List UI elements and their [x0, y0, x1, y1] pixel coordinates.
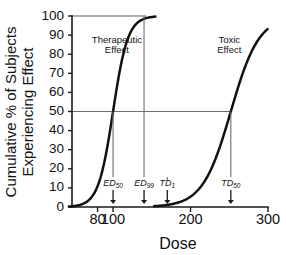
- ed99-marker-label: ED99: [134, 178, 154, 189]
- y-tick-label: 40: [49, 122, 64, 137]
- x-axis-title: Dose: [159, 235, 196, 252]
- y-axis-title: Cumulative % of Subjects Experiencing Ef…: [2, 27, 36, 198]
- td1-marker-label: TD1: [159, 178, 175, 189]
- y-tick-label: 90: [49, 27, 64, 42]
- x-axis-tick-labels: 80100200300: [89, 211, 280, 227]
- dose-response-chart: Cumulative % of Subjects Experiencing Ef…: [0, 0, 286, 255]
- reference-lines: [72, 16, 231, 112]
- y-axis-title-line1: Cumulative % of Subjects: [2, 27, 19, 198]
- ed50-marker-label: ED50: [103, 178, 123, 189]
- td50-marker-arrow-head: [228, 200, 234, 204]
- x-tick-label: 200: [178, 211, 202, 227]
- y-tick-label: 50: [49, 103, 64, 118]
- y-tick-label: 80: [49, 46, 64, 61]
- toxic-effect-label-line2: Effect: [217, 44, 241, 55]
- y-tick-label: 10: [49, 179, 64, 194]
- region-annotations: TherapeuticEffectToxicEffect: [92, 34, 242, 55]
- y-axis-tick-labels: 0102030405060708090100: [41, 8, 64, 214]
- td50-marker-label: TD50: [221, 178, 241, 189]
- y-tick-label: 60: [49, 84, 64, 99]
- y-tick-label: 70: [49, 65, 64, 80]
- chart-canvas: Cumulative % of Subjects Experiencing Ef…: [0, 0, 286, 255]
- x-tick-label: 300: [256, 211, 280, 227]
- ed99-marker-arrow-head: [141, 200, 147, 204]
- y-tick-label: 100: [41, 8, 64, 23]
- y-axis-title-line2: Experiencing Effect: [19, 47, 36, 177]
- y-tick-label: 30: [49, 141, 64, 156]
- y-tick-label: 0: [56, 199, 64, 214]
- ed50-marker-arrow-head: [110, 200, 116, 204]
- therapeutic-effect-label-line2: Effect: [105, 44, 129, 55]
- y-tick-label: 20: [49, 160, 64, 175]
- x-tick-label: 100: [101, 211, 125, 227]
